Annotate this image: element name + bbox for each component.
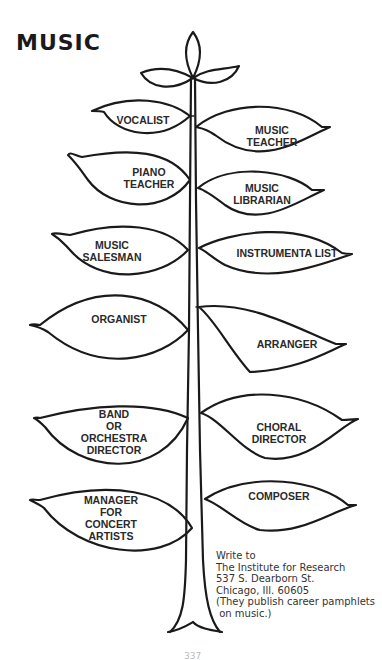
leaf-label-choral-director: CHORALDIRECTOR — [252, 421, 307, 445]
leaf-label-composer: COMPOSER — [248, 490, 309, 502]
leaf-label-vocalist: VOCALIST — [116, 114, 169, 126]
leaf-label-instrumentalist: INSTRUMENTA LIST — [237, 247, 338, 259]
leaf-label-music-teacher: MUSICTEACHER — [247, 124, 298, 148]
leaf-label-music-librarian: MUSICLIBRARIAN — [233, 182, 291, 206]
leaf-label-band-director: BANDORORCHESTRADIRECTOR — [81, 408, 148, 456]
leaf-label-organist: ORGANIST — [91, 313, 146, 325]
page-number: 337 — [184, 651, 201, 660]
leaf-label-arranger: ARRANGER — [257, 338, 318, 350]
leaf-label-music-salesman: MUSICSALESMAN — [83, 239, 142, 263]
trunk — [168, 78, 222, 632]
leaf-label-piano-teacher: PIANOTEACHER — [124, 166, 175, 190]
address-note: Write toThe Institute for Research537 S.… — [216, 550, 375, 619]
leaf-label-manager: MANAGERFORCONCERTARTISTS — [84, 494, 138, 542]
leaf-organist — [30, 295, 188, 358]
leaf-composer — [205, 481, 356, 530]
